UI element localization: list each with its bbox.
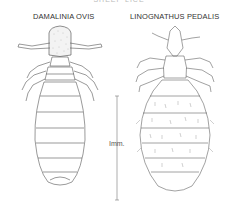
setae — [136, 101, 214, 167]
scale-bar-label: Imm. — [109, 140, 125, 147]
damalinia-ovis-drawing — [18, 26, 102, 185]
linognathus-pedalis-drawing — [136, 26, 214, 191]
lice-illustration — [0, 0, 238, 217]
scale-bar — [115, 96, 119, 200]
